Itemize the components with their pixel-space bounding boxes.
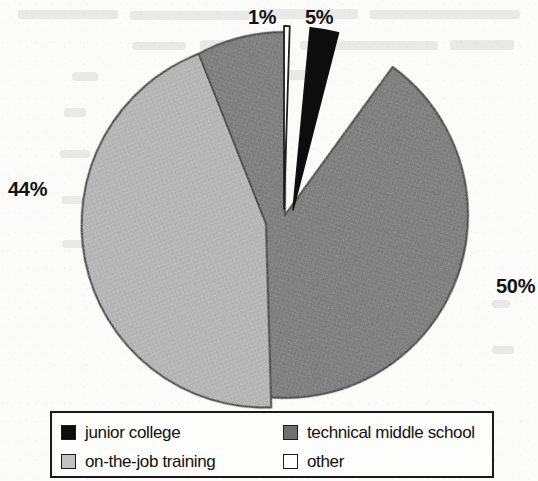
legend-item-other: other bbox=[283, 453, 483, 470]
legend-label-technical-middle-school: technical middle school bbox=[307, 424, 475, 441]
pie-chart-figure: 1% 5% 44% 50% junior college technical m… bbox=[0, 0, 538, 481]
legend-label-junior-college: junior college bbox=[85, 424, 180, 441]
legend-swatch-junior-college bbox=[61, 425, 76, 440]
legend-item-on-the-job-training: on-the-job training bbox=[61, 453, 283, 470]
chart-legend: junior college technical middle school o… bbox=[50, 411, 494, 478]
slice-label-on-the-job-training: 44% bbox=[8, 178, 47, 201]
legend-label-other: other bbox=[307, 453, 344, 470]
legend-label-on-the-job-training: on-the-job training bbox=[85, 453, 215, 470]
pie-chart-graphic bbox=[0, 0, 538, 481]
slice-label-other: 1% bbox=[248, 6, 276, 29]
legend-grid: junior college technical middle school o… bbox=[61, 418, 489, 476]
legend-swatch-other bbox=[283, 454, 298, 469]
slice-label-junior-college: 5% bbox=[305, 6, 333, 29]
legend-swatch-technical-middle-school bbox=[283, 425, 298, 440]
legend-item-technical-middle-school: technical middle school bbox=[283, 424, 483, 441]
legend-swatch-on-the-job-training bbox=[61, 454, 76, 469]
slice-label-technical-middle-school: 50% bbox=[496, 275, 535, 298]
legend-item-junior-college: junior college bbox=[61, 424, 283, 441]
